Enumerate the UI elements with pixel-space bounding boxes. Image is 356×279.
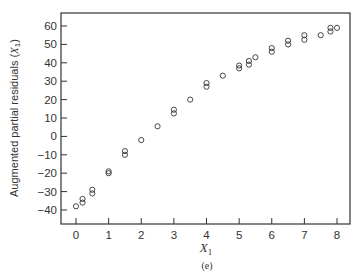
data-point — [73, 204, 78, 209]
y-tick-label: 30 — [44, 75, 57, 87]
data-point — [155, 124, 160, 129]
y-tick-label: 60 — [44, 20, 57, 32]
x-axis-label: X1 — [199, 240, 212, 257]
y-tick-label: 20 — [44, 94, 57, 106]
data-point — [204, 80, 209, 85]
y-axis-ticks: −40−30−20−100102030405060 — [37, 20, 67, 216]
data-point — [171, 107, 176, 112]
data-point — [188, 97, 193, 102]
data-point — [80, 196, 85, 201]
x-tick-label: 6 — [269, 229, 275, 241]
x-tick-label: 5 — [236, 229, 242, 241]
y-tick-label: −40 — [37, 204, 57, 216]
y-tick-label: 50 — [44, 38, 57, 50]
x-tick-label: 2 — [138, 229, 144, 241]
panel-label: (e) — [201, 260, 212, 272]
y-tick-label: −10 — [37, 149, 57, 161]
data-point — [220, 73, 225, 78]
x-tick-label: 3 — [171, 229, 177, 241]
plot-frame — [61, 13, 350, 224]
data-point — [285, 38, 290, 43]
data-point — [246, 58, 251, 63]
x-tick-label: 1 — [105, 229, 111, 241]
x-axis-ticks: 012345678 — [73, 218, 340, 241]
data-point — [139, 137, 144, 142]
y-tick-label: −30 — [37, 186, 57, 198]
y-tick-label: −20 — [37, 167, 57, 179]
x-tick-label: 7 — [301, 229, 307, 241]
x-tick-label: 0 — [73, 229, 79, 241]
scatter-chart: −40−30−20−100102030405060 012345678 Augm… — [0, 0, 356, 279]
data-point — [334, 25, 339, 30]
data-point — [122, 149, 127, 154]
data-point — [253, 55, 258, 60]
y-tick-label: 0 — [51, 130, 57, 142]
data-point — [318, 33, 323, 38]
data-point — [90, 187, 95, 192]
y-axis-label: Augmented partial residuals (X1) — [8, 39, 22, 197]
data-points — [73, 25, 339, 209]
data-point — [328, 25, 333, 30]
x-tick-label: 8 — [334, 229, 340, 241]
y-tick-label: 40 — [44, 57, 57, 69]
y-tick-label: 10 — [44, 112, 57, 124]
data-point — [269, 45, 274, 50]
